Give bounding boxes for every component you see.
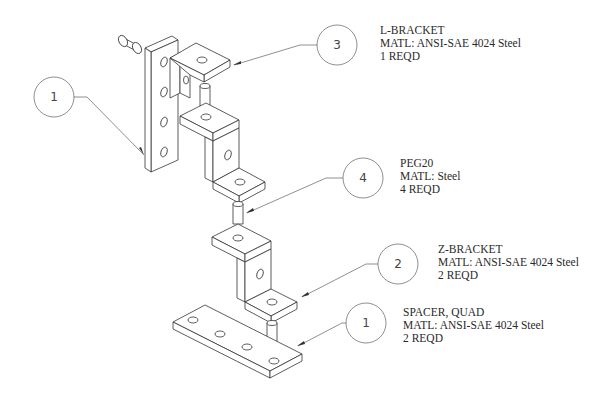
part-qty: 2 REQD <box>438 269 579 282</box>
svg-text:1: 1 <box>362 316 370 330</box>
balloon-2: 2 <box>301 244 418 297</box>
label-peg20: PEG20 MATL: Steel 4 REQD <box>400 157 460 196</box>
part-name: SPACER, QUAD <box>403 306 544 319</box>
part-material: MATL: ANSI-SAE 4024 Steel <box>380 37 521 50</box>
vertical-spacer-quad <box>117 34 178 172</box>
part-name: PEG20 <box>400 157 460 170</box>
svg-text:1: 1 <box>50 90 58 104</box>
part-material: MATL: ANSI-SAE 4024 Steel <box>403 319 544 332</box>
label-spacer-quad: SPACER, QUAD MATL: ANSI-SAE 4024 Steel 2… <box>403 306 544 345</box>
part-qty: 4 REQD <box>400 183 460 196</box>
peg-middle <box>233 202 243 225</box>
svg-text:2: 2 <box>394 257 402 271</box>
balloon-4: 4 <box>246 158 383 213</box>
part-name: Z-BRACKET <box>438 243 579 256</box>
balloon-3: 3 <box>233 25 357 65</box>
svg-text:4: 4 <box>359 171 367 185</box>
label-z-bracket: Z-BRACKET MATL: ANSI-SAE 4024 Steel 2 RE… <box>438 243 579 282</box>
part-material: MATL: ANSI-SAE 4024 Steel <box>438 256 579 269</box>
peg-upper <box>200 84 210 107</box>
peg-top-left <box>117 34 144 55</box>
svg-text:3: 3 <box>333 38 341 52</box>
part-qty: 2 REQD <box>403 332 544 345</box>
part-name: L-BRACKET <box>380 24 521 37</box>
part-material: MATL: Steel <box>400 170 460 183</box>
z-bracket-lower <box>212 224 297 323</box>
label-l-bracket: L-BRACKET MATL: ANSI-SAE 4024 Steel 1 RE… <box>380 24 521 63</box>
part-qty: 1 REQD <box>380 50 521 63</box>
balloon-1-bottom: 1 <box>297 303 386 346</box>
z-bracket-upper <box>180 103 265 203</box>
balloon-1-left: 1 <box>34 77 144 155</box>
